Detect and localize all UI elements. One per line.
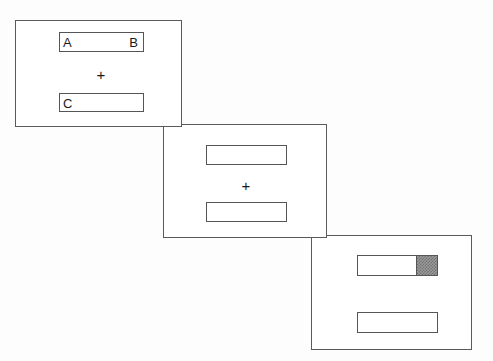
panel-2-bar-top (206, 145, 287, 165)
panel-3 (311, 235, 472, 350)
panel-1-bar-top-label-right: B (129, 36, 138, 49)
panel-3-bar-top (357, 255, 438, 276)
panel-3-bar-top-fill-block (416, 256, 437, 275)
panel-1-bar-top: A B (59, 32, 144, 52)
figure-canvas: A B + C + (0, 0, 493, 361)
panel-1-bar-top-label-left: A (63, 36, 72, 49)
panel-1: A B + C (15, 20, 182, 127)
panel-1-bar-bottom: C (59, 93, 144, 112)
panel-1-bar-bottom-label-left: C (63, 96, 72, 109)
panel-1-fixation-cross: + (97, 67, 106, 82)
panel-2-bar-bottom (206, 202, 287, 222)
panel-2-fixation-cross: + (242, 178, 251, 193)
panel-2: + (163, 124, 327, 238)
panel-3-bar-bottom (357, 312, 438, 333)
